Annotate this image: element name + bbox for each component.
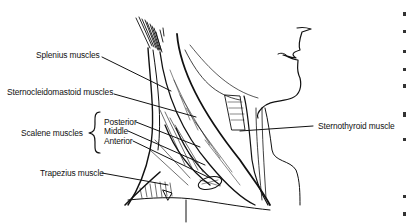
leader-trapezius	[102, 173, 168, 185]
face-profile	[258, 28, 311, 118]
leader-posterior	[136, 122, 200, 147]
label-sternocleidomastoid: Sternocleidomastoid muscles	[7, 87, 113, 97]
hair-hatching	[136, 17, 164, 52]
scalene-brace	[89, 112, 100, 153]
leader-splenius	[102, 57, 171, 91]
neck-muscle-illustration	[0, 0, 408, 224]
cropped-text-edge	[399, 0, 408, 224]
label-trapezius: Trapezius muscle	[40, 168, 104, 178]
label-scalene-muscles: Scalene muscles	[21, 128, 83, 138]
label-scalene-middle: Middle	[104, 126, 128, 136]
leader-middle	[128, 131, 205, 165]
leader-sternocleidomastoid	[114, 94, 196, 117]
leader-sternothyroid	[240, 126, 313, 131]
label-splenius: Splenius muscles	[36, 50, 100, 60]
label-sternothyroid: Sternothyroid muscle	[318, 121, 395, 131]
label-scalene-anterior: Anterior	[104, 136, 133, 146]
